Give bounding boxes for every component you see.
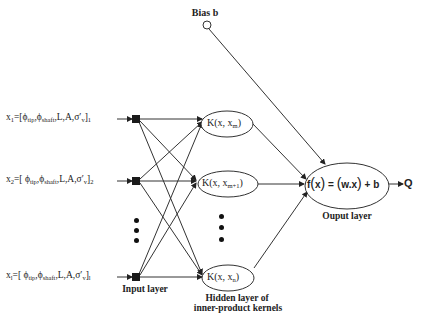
kernel-node-n: K(x, xn) — [207, 271, 239, 283]
input-vector-1: x1=[ϕtip,ϕshaft,L,A,σ′v]1 — [6, 112, 91, 123]
input-vector-2: x2=[ ϕtip,ϕshaft,L,A,σ′v]2 — [6, 174, 93, 185]
ellipsis-dot — [219, 214, 224, 219]
ellipsis-dot — [219, 237, 224, 242]
bias-label: Bias b — [192, 7, 218, 18]
output-equation: f(x) = (w.x) + b — [307, 175, 379, 191]
hidden-layer-label-line1: Hidden layer of — [205, 293, 268, 303]
output-layer-label: Ouput layer — [322, 211, 371, 221]
kernel-node-m-plus-1: K(x, xm+1) — [202, 177, 243, 189]
kernel-node-m: K(x, xm) — [207, 117, 241, 129]
ellipsis-dot — [134, 238, 139, 243]
input-vector-l: xl=[ ϕtip,ϕshaft,L,A,σ′v]l — [6, 270, 91, 281]
output-symbol-q: Q — [404, 177, 413, 189]
ellipsis-dot — [134, 228, 139, 233]
hidden-layer-label-line2: inner-product kernels — [194, 303, 282, 313]
input-layer-label: Input layer — [122, 284, 168, 294]
ellipsis-dot — [134, 218, 139, 223]
ellipsis-dot — [219, 225, 224, 230]
